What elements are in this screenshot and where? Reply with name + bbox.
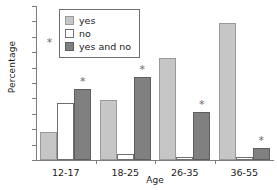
bar-yes-36-55 [219,23,236,160]
bar-slot: * [253,6,270,160]
significance-asterisk-26-35: * [199,101,205,109]
legend-swatch-yes-and-no [65,42,74,51]
significance-asterisk-18-25: * [140,66,146,74]
bar-yes-18-25 [100,100,117,160]
bar-no-26-35 [176,157,193,160]
bar-chart: Percentage 0102030405060708090100 **** 1… [0,0,277,190]
legend-swatch-no [65,29,74,38]
bar-group-36-55: * [215,6,275,160]
bar-yes-and-no-12-17 [74,89,91,160]
bar-slot [236,6,253,160]
bar-yes-and-no-18-25 [134,77,151,160]
bar-no-12-17 [57,103,74,160]
x-tick [215,160,216,164]
bar-group-26-35: * [155,6,215,160]
bar-slot [219,6,236,160]
legend-label-no: no [79,28,91,39]
legend-item-no: no [65,27,131,40]
significance-asterisk-36-55: * [259,137,265,145]
legend-swatch-yes [65,16,74,25]
bar-slot: * [193,6,210,160]
x-tick [96,160,97,164]
bar-no-18-25 [117,154,134,160]
x-axis-label: Age [36,175,274,185]
legend-label-yes: yes [79,15,95,26]
legend-item-yes: yes [65,14,131,27]
x-tick [155,160,156,164]
y-axis-label: Percentage [5,29,19,105]
legend-item-yes-and-no: yes and no [65,40,131,53]
bar-yes-12-17 [40,132,57,160]
legend: yesnoyes and no [59,9,140,58]
bar-no-36-55 [236,157,253,160]
bar-slot [176,6,193,160]
bar-slot [40,6,57,160]
legend-label-yes-and-no: yes and no [79,41,131,52]
bar-yes-and-no-36-55 [253,148,270,160]
significance-asterisk-12-17: * [80,78,86,86]
legend-asterisk-marker: * [44,39,55,47]
y-tick [32,160,37,161]
bar-yes-and-no-26-35 [193,112,210,160]
bar-slot [159,6,176,160]
bar-yes-26-35 [159,58,176,160]
